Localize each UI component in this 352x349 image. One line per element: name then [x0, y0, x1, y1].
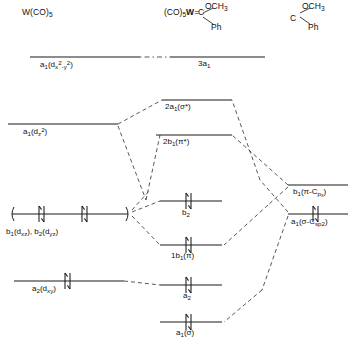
level-label-center-1b1: 1b1(π) — [171, 252, 194, 261]
correlation-r1-kink — [268, 187, 288, 205]
correlation-kink-c5 — [224, 205, 268, 245]
level-label-left-a1-dz2: a1(dz2) — [23, 127, 47, 137]
correlation-l2-valley — [118, 126, 146, 200]
correlation-down-c7 — [224, 290, 262, 322]
level-label-center-3a1: 3a1 — [198, 60, 210, 69]
level-label-left-b1b2: b1(dxz), b2(dyz) — [6, 228, 58, 237]
correlation-l2-c2 — [118, 100, 162, 124]
fragment-center-bonds — [203, 8, 213, 24]
bond-c-ph-right — [300, 17, 310, 24]
correlation-r2-c2 — [232, 100, 260, 180]
level-label-left-a2-dxy: a2(dxy) — [32, 285, 56, 294]
bond-c-och3-right — [300, 8, 310, 13]
level-label-center-a1: a1(σ) — [176, 329, 194, 338]
correlation-lines — [118, 57, 288, 322]
correlation-l3-up — [132, 190, 150, 210]
level-label-right-b1: b1(π-Cpx) — [293, 188, 326, 198]
level-label-right-a1: a1(σ-Csp2) — [291, 218, 328, 227]
diagram-canvas — [0, 0, 352, 349]
mo-diagram-figure: W(CO)5 (CO)5W=C OCH3 Ph C OCH3 Ph — [0, 0, 352, 349]
correlation-l3-c4 — [132, 201, 160, 212]
correlation-l3-c5 — [132, 216, 160, 245]
level-label-center-b2: b2 — [182, 209, 190, 218]
level-label-center-2a1: 2a1(σ*) — [165, 103, 191, 112]
correlation-r2-up — [260, 180, 288, 212]
correlation-r2-down — [262, 216, 288, 290]
correlation-r1-c3 — [232, 135, 288, 185]
bond-c-ph — [203, 17, 213, 24]
correlation-l4-c6 — [124, 281, 160, 285]
fragment-right-bonds — [300, 8, 310, 24]
level-label-center-a2: a2 — [183, 292, 191, 301]
level-label-left-a1-dx2y2: a1(dx2-y2) — [40, 60, 73, 70]
correlation-valley-c3 — [146, 135, 160, 200]
bond-c-och3 — [203, 8, 213, 13]
level-label-center-2b1: 2b1(π*) — [163, 138, 189, 147]
